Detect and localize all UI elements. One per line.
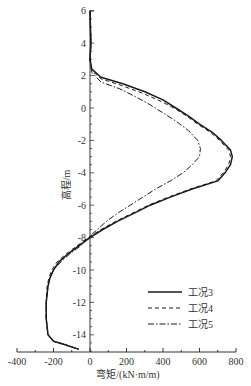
y-tick-label: 4 — [81, 38, 86, 49]
legend-label: 工况3 — [188, 287, 213, 298]
y-tick-label: 2 — [81, 70, 86, 81]
y-tick-label: 0 — [81, 103, 86, 114]
y-tick-label: -4 — [78, 167, 86, 178]
x-tick-label: 800 — [229, 356, 244, 367]
y-tick-label: -6 — [78, 200, 86, 211]
y-axis-title: 高程/m — [60, 170, 72, 201]
x-tick-label: -400 — [8, 356, 26, 367]
x-tick-label: -200 — [44, 356, 62, 367]
x-tick-label: 600 — [192, 356, 207, 367]
y-tick-label: 6 — [81, 5, 86, 16]
y-tick-label: -14 — [73, 329, 86, 340]
y-tick-label: -2 — [78, 135, 86, 146]
x-tick-label: 0 — [88, 356, 93, 367]
y-tick-label: -10 — [73, 265, 86, 276]
x-tick-label: 200 — [119, 356, 134, 367]
y-tick-label: -12 — [73, 297, 86, 308]
x-axis-title: 弯矩/(kN·m/m) — [96, 368, 159, 381]
legend: 工况3工况4工况5 — [148, 287, 213, 330]
moment-elevation-chart: -400-20002004006008006420-2-4-6-8-10-12-… — [0, 0, 251, 386]
legend-label: 工况5 — [188, 319, 213, 330]
legend-label: 工况4 — [188, 303, 213, 314]
x-tick-label: 400 — [156, 356, 171, 367]
